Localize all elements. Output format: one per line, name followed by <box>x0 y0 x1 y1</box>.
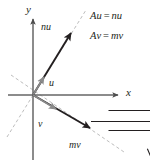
equation-1-lhs-vector: u <box>96 11 101 22</box>
equation-1-rhs-vector: u <box>117 11 122 22</box>
equation-2: Av =mv <box>90 31 123 42</box>
equation-2-rhs-scalar: m <box>111 30 119 41</box>
vector-label-nu: nu <box>41 22 51 32</box>
vector-u-arrow <box>33 77 44 95</box>
vector-arrows <box>33 33 90 128</box>
equation-2-rhs-vector: v <box>119 31 124 42</box>
equation-1: Au =nu <box>90 11 122 22</box>
vector-label-v: v <box>38 119 42 129</box>
vector-label-u-glyph: u <box>49 78 54 88</box>
equation-2-operator: = <box>101 30 111 41</box>
equation-2-lhs-vector: v <box>96 31 101 42</box>
y-axis-label: y <box>26 4 31 15</box>
x-axis-label: x <box>126 87 131 98</box>
eigenvector-figure: y x nu u v <box>0 0 150 164</box>
dashed-line-v-span <box>11 75 124 152</box>
vector-v-arrow <box>33 95 56 109</box>
vector-label-v-glyph: v <box>38 119 42 129</box>
vector-label-mv: mv <box>69 140 81 150</box>
vector-label-nu-glyph: nu <box>41 22 51 32</box>
equation-1-operator: = <box>102 10 112 21</box>
vector-label-u: u <box>49 78 54 88</box>
vector-label-mv-glyph: mv <box>69 140 81 150</box>
